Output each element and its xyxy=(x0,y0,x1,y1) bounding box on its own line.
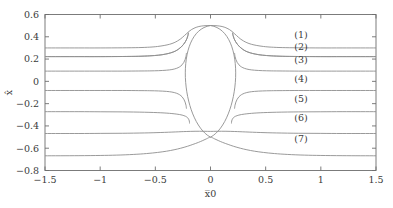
x-axis-title: x̅0 xyxy=(205,188,216,199)
x-tick-label: −1 xyxy=(93,174,107,185)
series-line-4-left xyxy=(45,90,186,108)
curve-label-1: (1) xyxy=(294,29,307,40)
plot-frame xyxy=(45,15,376,171)
series-line-7 xyxy=(45,137,376,156)
curve-label-7: (7) xyxy=(294,133,307,144)
curve-label-3: (3) xyxy=(294,54,307,65)
y-axis-title: x̂ xyxy=(3,89,14,95)
series-group xyxy=(45,26,376,156)
curve-label-2: (2) xyxy=(294,41,307,52)
y-tick-label: −0.6 xyxy=(16,143,39,154)
x-tick-label: 1 xyxy=(318,174,324,185)
figure-container: 0.60.40.20−0.2−0.4−0.6−0.8 −1.5−1−0.500.… xyxy=(0,0,393,208)
y-tick-label: 0.6 xyxy=(24,9,39,20)
y-tick-label: 0 xyxy=(33,76,39,87)
series-line-5-left xyxy=(45,112,190,124)
curve-label-4: (4) xyxy=(294,73,307,84)
x-tick-label: −0.5 xyxy=(144,174,167,185)
x-axis-tick-group: −1.5−1−0.500.511.5 xyxy=(33,15,383,185)
x-tick-label: 0.5 xyxy=(258,174,273,185)
curve-annotation-group: (1)(2)(3)(4)(5)(6)(7) xyxy=(294,29,307,144)
x-tick-label: 1.5 xyxy=(368,174,383,185)
curve-label-5: (5) xyxy=(294,93,307,104)
x-tick-label: −1.5 xyxy=(33,174,56,185)
y-tick-label: 0.2 xyxy=(24,53,39,64)
central-lens-shape xyxy=(185,26,235,138)
curve-label-6: (6) xyxy=(294,112,307,123)
series-line-6 xyxy=(45,131,376,133)
x-tick-label: 0 xyxy=(207,174,213,185)
series-line-1 xyxy=(45,26,376,48)
y-tick-label: −0.4 xyxy=(16,120,39,131)
y-tick-label: 0.4 xyxy=(24,31,39,42)
series-line-3-left xyxy=(45,53,186,71)
chart-canvas: 0.60.40.20−0.2−0.4−0.6−0.8 −1.5−1−0.500.… xyxy=(0,0,393,208)
y-tick-label: −0.2 xyxy=(16,98,39,109)
